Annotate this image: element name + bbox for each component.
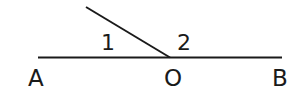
angle-2-label: 2 bbox=[177, 30, 191, 55]
ray-from-o bbox=[86, 7, 170, 58]
point-b-label: B bbox=[272, 65, 288, 91]
point-o-label: O bbox=[164, 65, 182, 91]
point-a-label: A bbox=[28, 65, 44, 91]
angle-1-label: 1 bbox=[101, 30, 115, 55]
geometry-diagram: 1 2 A O B bbox=[0, 0, 302, 92]
